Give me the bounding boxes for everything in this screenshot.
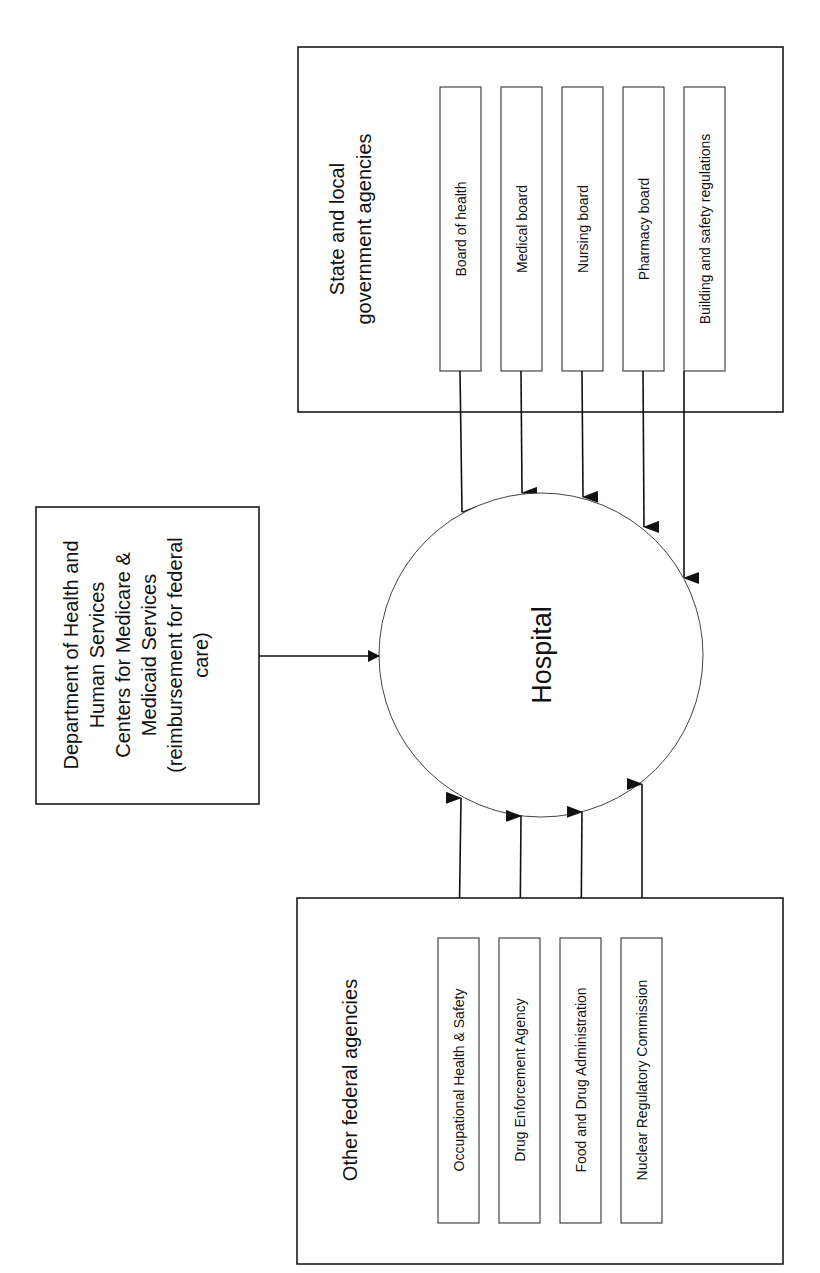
dhhs-line-1: Department of Health and — [60, 540, 82, 769]
agency-label: Nuclear Regulatory Commission — [634, 980, 650, 1181]
dhhs-line-4: Medicaid Services — [138, 574, 160, 736]
agency-medical-board: Medical board — [501, 87, 542, 371]
agency-building-safety: Building and safety regulations — [684, 87, 725, 371]
arrow-down-icon — [643, 371, 644, 527]
agency-label: Pharmacy board — [636, 178, 652, 281]
dhhs-line-2: Human Services — [86, 582, 108, 729]
agency-label: Nursing board — [575, 185, 591, 273]
agency-board-of-health: Board of health — [440, 87, 481, 371]
dhhs-line-5: (reimbursement for federal — [164, 537, 186, 773]
other-federal-group-title: Other federal agencies — [339, 979, 361, 1181]
agency-pharmacy-board: Pharmacy board — [623, 87, 664, 371]
state-local-group-title-line-2: government agencies — [353, 133, 375, 324]
agency-occupational-health-safety: Occupational Health & Safety — [438, 938, 479, 1223]
agency-nuclear-regulatory: Nuclear Regulatory Commission — [621, 938, 662, 1223]
dhhs-line-3: Centers for Medicare & — [112, 552, 134, 758]
agency-label: Board of health — [453, 182, 469, 277]
arrow-down-icon — [521, 371, 522, 493]
agency-label: Occupational Health & Safety — [451, 989, 467, 1172]
regulation-diagram: State and local government agencies Boar… — [0, 0, 820, 1273]
arrow-down-icon — [582, 371, 583, 497]
hospital-label: Hospital — [527, 606, 557, 704]
agency-nursing-board: Nursing board — [562, 87, 603, 371]
dhhs-cms-group: Department of Health and Human Services … — [36, 507, 259, 804]
dhhs-line-6: care) — [190, 632, 212, 678]
agency-label: Food and Drug Administration — [573, 987, 589, 1172]
hospital-node: Hospital — [379, 493, 703, 817]
state-local-group-title-line-1: State and local — [326, 163, 348, 295]
agency-food-drug-administration: Food and Drug Administration — [560, 938, 601, 1223]
agency-label: Drug Enforcement Agency — [512, 998, 528, 1161]
agency-label: Medical board — [514, 185, 530, 273]
other-federal-agencies-group: Other federal agencies Occupational Heal… — [297, 898, 783, 1264]
agency-label: Building and safety regulations — [697, 134, 713, 325]
agency-drug-enforcement: Drug Enforcement Agency — [499, 938, 540, 1223]
state-local-agencies-group: State and local government agencies Boar… — [298, 47, 783, 412]
